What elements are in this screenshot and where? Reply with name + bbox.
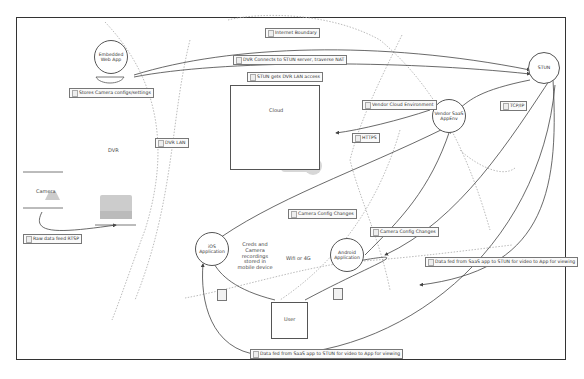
tcp-ip-tag[interactable]: TCP/IP (500, 101, 527, 111)
camera-config-tag-2[interactable]: Camera Config Changes (370, 227, 439, 237)
vendor-saas-node[interactable]: Vendor SaaS AppEnv (432, 99, 466, 133)
ios-app-label: iOS Application (196, 244, 228, 255)
internet-boundary-text: Internet Boundary (275, 30, 317, 35)
camera-config-tag-1[interactable]: Camera Config Changes (288, 209, 357, 219)
ios-app-node[interactable]: iOS Application (195, 232, 229, 266)
creds-note: Creds and Camera recordings stored in mo… (236, 242, 274, 271)
camera-config-text-2: Camera Config Changes (380, 229, 436, 234)
data-feed-bottom-text: Data fed from SaaS app to STUN for video… (260, 351, 400, 356)
camera-config-text-1: Camera Config Changes (298, 211, 354, 216)
embedded-web-app-node[interactable]: Embedded Web App (94, 40, 128, 74)
vendor-cloud-text: Vendor Cloud Environment (372, 102, 434, 107)
internet-boundary-tag[interactable]: Internet Boundary (265, 28, 320, 38)
ios-link-marker-icon (217, 289, 227, 301)
embedded-web-app-label: Embedded Web App (95, 52, 127, 63)
dvr-lan-tag[interactable]: DVR LAN (155, 138, 189, 148)
https-text: HTTPS (362, 135, 377, 140)
wifi-label: Wifi or 4G (286, 256, 311, 262)
dvr-connects-text: DVR Connects to STUN server, traverse NA… (243, 57, 344, 62)
vendor-cloud-tag[interactable]: Vendor Cloud Environment (362, 100, 437, 110)
data-feed-bottom-tag[interactable]: Data fed from SaaS app to STUN for video… (250, 349, 403, 359)
raw-feed-tag[interactable]: Raw data feed RTSP (23, 234, 82, 244)
stun-label: STUN (538, 65, 551, 71)
dvr-zone-label: DVR (108, 148, 119, 154)
stores-camera-tag[interactable]: Stores Camera configs/settings (69, 88, 154, 98)
user-node[interactable]: User (271, 302, 308, 339)
tcp-ip-text: TCP/IP (510, 103, 524, 108)
stores-camera-text: Stores Camera configs/settings (79, 90, 151, 95)
vendor-saas-label: Vendor SaaS AppEnv (433, 111, 465, 122)
stun-gets-dvr-text: STUN gets DVR LAN access (257, 74, 320, 79)
user-label: User (284, 317, 295, 323)
dvr-lan-text: DVR LAN (165, 140, 186, 145)
cloud-label: Cloud (269, 108, 283, 114)
android-link-marker-icon (333, 288, 343, 300)
android-app-node[interactable]: Android Application (330, 238, 364, 272)
boundary-dvr-inner (135, 40, 190, 300)
raw-feed-text: Raw data feed RTSP (33, 236, 79, 241)
cloud-zone[interactable]: Cloud (230, 85, 320, 170)
https-tag[interactable]: HTTPS (352, 133, 380, 143)
camera-label: Camera (36, 189, 56, 195)
android-app-label: Android Application (331, 250, 363, 261)
data-feed-right-text: Data fed from SaaS app to STUN for video… (435, 259, 575, 264)
stun-node[interactable]: STUN (528, 52, 560, 84)
data-feed-right-tag[interactable]: Data fed from SaaS app to STUN for video… (425, 257, 578, 267)
dvr-connects-tag[interactable]: DVR Connects to STUN server, traverse NA… (233, 55, 347, 65)
stun-gets-dvr-tag[interactable]: STUN gets DVR LAN access (247, 72, 323, 82)
